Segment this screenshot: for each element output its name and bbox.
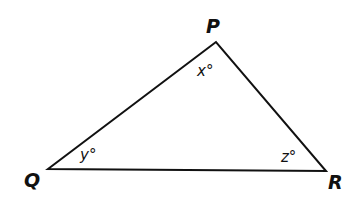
vertex-label-p: P [206, 15, 220, 37]
vertex-label-r: R [328, 171, 343, 193]
triangle-diagram: P Q R x° y° z° [0, 0, 360, 198]
triangle-svg: P Q R x° y° z° [0, 0, 360, 198]
vertex-label-q: Q [24, 169, 40, 191]
angle-label-x: x° [196, 62, 213, 80]
angle-label-z: z° [280, 148, 296, 166]
angle-label-y: y° [79, 146, 96, 164]
